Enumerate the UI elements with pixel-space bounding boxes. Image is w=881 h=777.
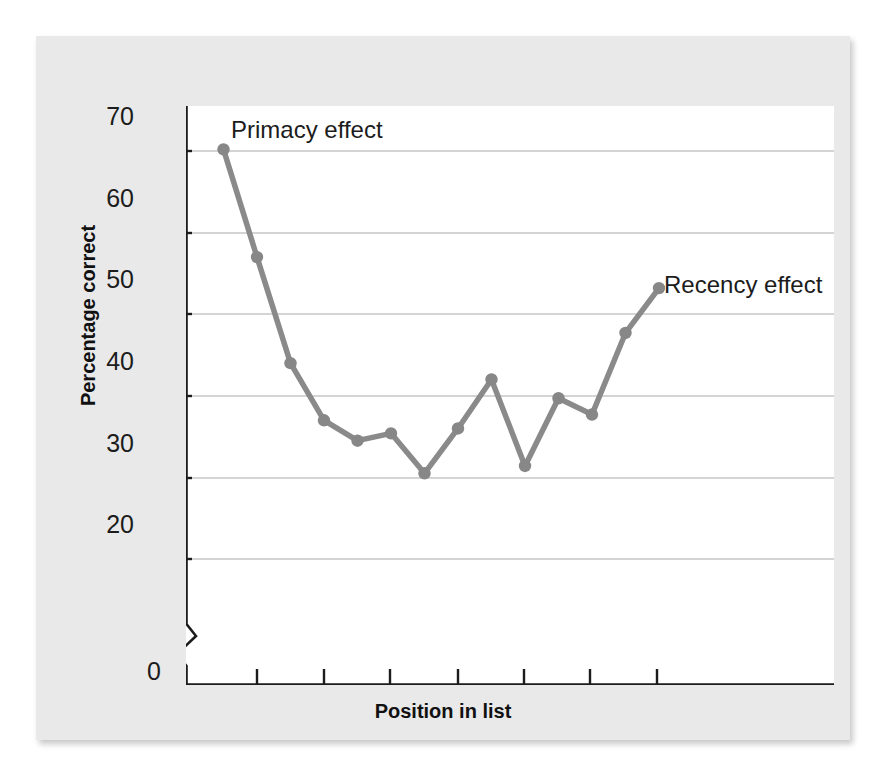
data-point bbox=[619, 327, 631, 339]
x-tick-marks bbox=[257, 669, 657, 684]
data-point bbox=[418, 467, 430, 479]
data-point bbox=[552, 392, 564, 404]
annotation-primacy-effect: Primacy effect bbox=[231, 116, 383, 144]
data-point bbox=[452, 422, 464, 434]
axis-spines bbox=[186, 106, 834, 685]
data-point bbox=[217, 143, 229, 155]
annotation-recency-effect: Recency effect bbox=[664, 271, 822, 299]
figure-root: Percentage correct 70 60 50 40 30 20 0 2… bbox=[0, 0, 881, 777]
x-axis-title: Position in list bbox=[36, 700, 850, 723]
y-tick-label-60: 60 bbox=[74, 184, 134, 213]
data-point bbox=[485, 373, 497, 385]
y-tick-label-40: 40 bbox=[74, 347, 134, 376]
gridlines bbox=[186, 151, 834, 559]
data-line bbox=[224, 149, 660, 473]
data-point bbox=[586, 408, 598, 420]
data-point bbox=[351, 434, 363, 446]
x-tick-label-0: 0 bbox=[124, 657, 184, 686]
data-markers bbox=[217, 143, 665, 479]
data-point bbox=[251, 251, 263, 263]
y-tick-label-70: 70 bbox=[74, 102, 134, 131]
data-point bbox=[385, 427, 397, 439]
data-point bbox=[318, 414, 330, 426]
y-tick-label-30: 30 bbox=[74, 429, 134, 458]
y-tick-label-20: 20 bbox=[74, 510, 134, 539]
data-point bbox=[519, 460, 531, 472]
serial-position-chart bbox=[186, 106, 834, 685]
figure-panel: Percentage correct 70 60 50 40 30 20 0 2… bbox=[36, 36, 850, 740]
y-tick-label-50: 50 bbox=[74, 265, 134, 294]
plot-surface: Primacy effect Recency effect bbox=[186, 106, 834, 685]
data-point bbox=[284, 357, 296, 369]
y-axis-title: Percentage correct bbox=[77, 206, 100, 426]
